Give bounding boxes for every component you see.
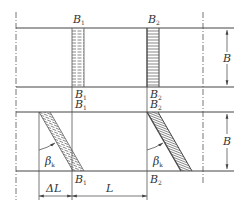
top-b1-abutment [72,28,84,87]
top-b2-abutment [147,28,159,87]
top-b1-label-above: B1 [72,13,85,26]
span-length-label: L [105,182,113,195]
right-skew-angle-label: βk [152,155,163,168]
offset-label: ΔL [45,182,61,195]
top-b2-label-above: B2 [147,13,160,26]
left-skew-angle-arc [39,143,55,150]
bottom-b1-label-below: B1 [74,173,87,186]
top-width-label: B [222,52,231,65]
left-skew-angle-label: βk [44,155,55,168]
right-skew-angle-arc [147,143,163,150]
bottom-width-label: B [222,135,231,148]
bottom-b2-label-below: B2 [149,173,162,186]
skew-bridge-diagram: B1 B2 B1 B2 B βk βk B1 B2 B1 B2 B ΔL L [0,0,244,214]
